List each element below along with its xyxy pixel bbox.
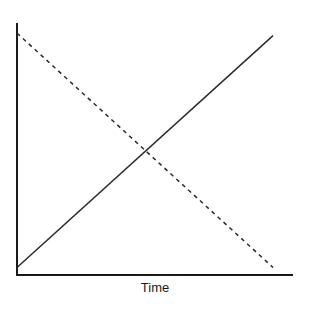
x-axis-label: Time [141,280,169,295]
solid-increasing-line [17,36,273,268]
line-chart: Time [0,0,310,315]
